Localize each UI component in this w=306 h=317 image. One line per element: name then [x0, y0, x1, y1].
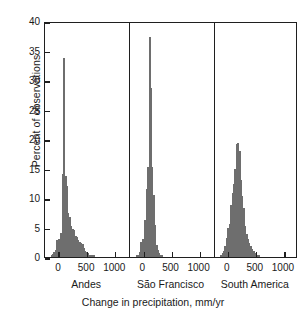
- x-tick-mark: [144, 252, 145, 257]
- x-tick-mark: [87, 252, 88, 257]
- plot-frame: [44, 22, 297, 258]
- figure: Percent of observations 0510152025303540…: [0, 0, 306, 317]
- y-tick-label: 5: [20, 224, 40, 234]
- x-tick-mark: [58, 252, 59, 257]
- y-tick-label: 35: [20, 47, 40, 57]
- y-tick-mark: [45, 258, 50, 259]
- panel-title: South America: [213, 279, 297, 290]
- histogram-bar: [161, 255, 163, 257]
- bar-series: [215, 23, 298, 257]
- y-tick-label: 20: [20, 135, 40, 145]
- panel-andes: [45, 23, 129, 257]
- x-tick-mark: [172, 252, 173, 257]
- panel-são-francisco: [129, 23, 213, 257]
- x-axis-label: Change in precipitation, mm/yr: [0, 296, 306, 308]
- x-tick-mark: [200, 252, 201, 257]
- y-tick-label: 0: [20, 253, 40, 263]
- x-tick-mark: [284, 252, 285, 257]
- x-tick-mark: [228, 252, 229, 257]
- bar-series: [45, 23, 129, 257]
- x-tick-label: 1000: [266, 263, 300, 273]
- x-tick-mark: [256, 252, 257, 257]
- panel-title: Andes: [44, 279, 128, 290]
- bar-series: [130, 23, 213, 257]
- histogram-bar: [93, 255, 95, 257]
- y-tick-label: 30: [20, 76, 40, 86]
- y-axis-tick-labels: 0510152025303540: [18, 0, 40, 317]
- x-tick-mark: [115, 252, 116, 257]
- histogram-bar: [258, 255, 260, 257]
- y-tick-label: 25: [20, 106, 40, 116]
- panel-south-america: [214, 23, 298, 257]
- y-tick-label: 40: [20, 17, 40, 27]
- y-tick-label: 15: [20, 165, 40, 175]
- panel-title: São Francisco: [128, 279, 212, 290]
- y-tick-label: 10: [20, 194, 40, 204]
